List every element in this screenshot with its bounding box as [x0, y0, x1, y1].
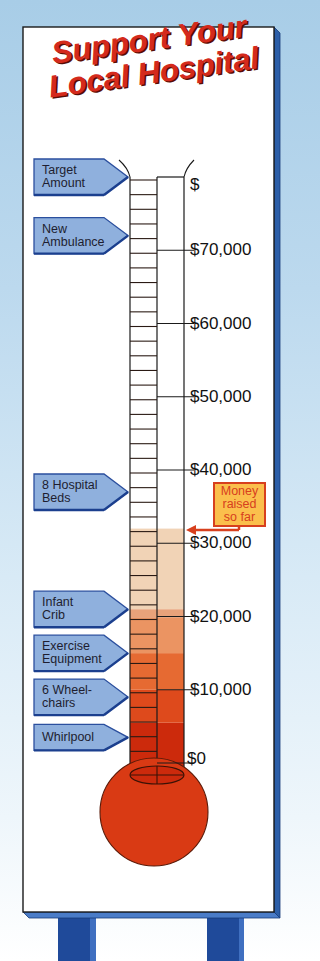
money-raised-callout: Money raised so far — [213, 482, 266, 527]
goal-label-text: Crib — [42, 609, 65, 622]
money-raised-line-3: so far — [215, 511, 264, 524]
board-bottom-edge — [23, 912, 280, 918]
goal-label-text: Ambulance — [42, 236, 105, 249]
sign-legs — [58, 912, 244, 961]
tick-label: $70,000 — [190, 241, 251, 259]
left-leg-side — [90, 918, 96, 961]
thermometer-bulb — [100, 758, 208, 866]
goal-label-text: chairs — [42, 697, 75, 710]
tick-label: $60,000 — [190, 315, 251, 333]
right-leg-side — [239, 918, 244, 961]
goal-label-text: Amount — [42, 177, 85, 190]
tick-label: $ — [190, 176, 199, 194]
goal-label-text: Whirlpool — [42, 731, 94, 744]
right-leg — [207, 912, 239, 961]
goal-label-text: Beds — [42, 492, 71, 505]
tick-label: $20,000 — [190, 608, 251, 626]
goal-label-text: Equipment — [42, 653, 102, 666]
board-right-edge — [274, 27, 280, 918]
tick-label: $10,000 — [190, 681, 251, 699]
tick-label: $40,000 — [190, 461, 251, 479]
goal-label-text: New — [42, 223, 67, 236]
tick-label: $0 — [187, 750, 206, 768]
left-leg — [58, 912, 90, 961]
tick-label: $50,000 — [190, 388, 251, 406]
tick-label: $30,000 — [190, 534, 251, 552]
